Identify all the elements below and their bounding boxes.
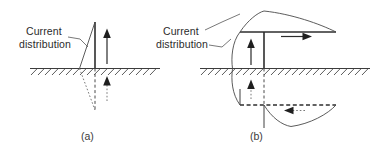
label-leader-a (68, 37, 88, 47)
panel-b: Current distribution (b) (156, 11, 370, 142)
label-distribution-a: distribution (19, 38, 71, 50)
current-arrow-up-b (247, 39, 255, 66)
label-leader-upper-b (205, 14, 240, 30)
caption-a: (a) (81, 130, 94, 142)
figure-canvas: Current distribution (a) (0, 0, 377, 152)
antenna-current-distribution-figure: Current distribution (a) (0, 0, 377, 152)
image-envelope-left-vertical-b (232, 69, 240, 106)
image-current-arrow-left-b (284, 107, 305, 115)
image-current-arrow-up-b (247, 80, 255, 100)
current-arrow-right-b (281, 33, 312, 41)
current-envelope-left-vertical-b (232, 32, 240, 69)
label-current-b: Current (163, 25, 199, 37)
label-current-a: Current (26, 25, 62, 37)
image-envelope-lower-left-b (264, 105, 291, 127)
ground-plane-hatching-a (31, 69, 156, 75)
current-arrow-up-a (103, 29, 111, 65)
panel-a: Current distribution (a) (19, 22, 160, 142)
image-current-arrow-up-a (103, 76, 111, 101)
current-envelope-a (80, 22, 96, 69)
label-distribution-b: distribution (156, 38, 208, 50)
current-envelope-upper-right-b (264, 11, 336, 32)
label-leader-lower-b (209, 39, 231, 47)
current-envelope-upper-left-b (240, 11, 264, 32)
caption-b: (b) (250, 130, 263, 142)
ground-plane-hatching-b (201, 69, 368, 75)
image-envelope-lower-right-b (291, 105, 336, 127)
